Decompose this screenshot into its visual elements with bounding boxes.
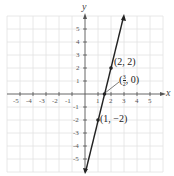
x-tick-label: -2: [52, 98, 58, 105]
y-tick-label: -5: [73, 156, 79, 163]
x-tick-label: 5: [148, 98, 152, 105]
point-label-1-neg2: (1, −2): [100, 114, 127, 124]
x-tick-label: 4: [135, 98, 139, 105]
y-tick-label: 4: [76, 39, 80, 46]
point-label-intercept: (32, 0): [119, 74, 139, 87]
y-tick-label: 2: [76, 65, 80, 72]
y-tick-label: 3: [76, 52, 80, 59]
y-tick-label: -3: [73, 130, 79, 137]
x-tick-label: -4: [26, 98, 32, 105]
coordinate-plane: [0, 0, 174, 176]
x-tick-label: 3: [122, 98, 126, 105]
line-arrow-down-icon: [83, 168, 88, 174]
y-tick-label: 1: [76, 78, 80, 85]
y-tick-label: -4: [73, 143, 79, 150]
x-tick-label: -3: [39, 98, 45, 105]
x-axis-label: x: [166, 88, 170, 98]
y-axis-label: y: [82, 2, 86, 12]
line-arrow-up-icon: [121, 14, 126, 21]
x-tick-label: 1: [96, 98, 100, 105]
y-tick-label: -2: [73, 117, 79, 124]
x-tick-label: -5: [13, 98, 19, 105]
point-2-2: [109, 66, 113, 70]
x-tick-label: 2: [109, 98, 113, 105]
point-label-2-2: (2, 2): [114, 57, 136, 67]
y-tick-label: 5: [76, 26, 80, 33]
axes: [7, 17, 162, 172]
x-tick-label: -1: [65, 98, 71, 105]
y-tick-label: -1: [73, 104, 79, 111]
